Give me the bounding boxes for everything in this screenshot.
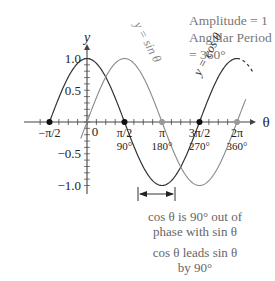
sin-zero-point [159, 119, 165, 125]
x-tick-degree-label: 90° [117, 140, 132, 152]
lead-note-line1: cos θ leads sin θ [130, 245, 260, 260]
x-tick-degree-label: 360° [227, 140, 248, 152]
y-tick-label: −1.0 [57, 178, 81, 193]
x-axis-title: θ [262, 114, 269, 130]
cos-zero-point [122, 119, 128, 125]
cos-curve-dashed-extension [237, 59, 254, 74]
arrow-left-head-icon [139, 191, 147, 197]
x-axis-arrow-icon [250, 119, 256, 125]
axes [24, 44, 256, 194]
x-tick-degree-label: 180° [152, 140, 173, 152]
x-tick-label: π [159, 126, 165, 140]
arrow-right-head-icon [166, 191, 174, 197]
y-tick-label: 1.0 [65, 51, 81, 66]
y-axis-title: y [82, 30, 91, 45]
sin-curve-label: y = sin θ [130, 18, 164, 65]
cos-zero-point [197, 119, 203, 125]
axis-labels: yθ1.00.5−0.5−1.0−π/20π/290°π180°3π/2270°… [38, 18, 269, 193]
x-tick-label: π/2 [117, 126, 132, 140]
x-tick-label: −π/2 [38, 126, 60, 140]
phase-note-line1: cos θ is 90° out of [130, 209, 260, 224]
phase-arrow-annotation [138, 187, 175, 201]
y-tick-label: 0.5 [65, 83, 81, 98]
x-tick-label-zero: 0 [92, 124, 99, 139]
cos-curve-label: y = cos θ [190, 30, 225, 79]
sin-zero-point [234, 119, 240, 125]
lead-note-line2: by 90° [130, 260, 260, 275]
lead-note: cos θ leads sin θ by 90° [130, 245, 260, 275]
x-tick-degree-label: 270° [189, 140, 210, 152]
phase-note: cos θ is 90° out of phase with sin θ [130, 209, 260, 239]
x-tick-label: 2π [231, 126, 243, 140]
cos-zero-point [47, 119, 53, 125]
y-tick-label: −0.5 [57, 146, 81, 161]
phase-note-line2: phase with sin θ [130, 224, 260, 239]
x-tick-label: 3π/2 [189, 126, 210, 140]
